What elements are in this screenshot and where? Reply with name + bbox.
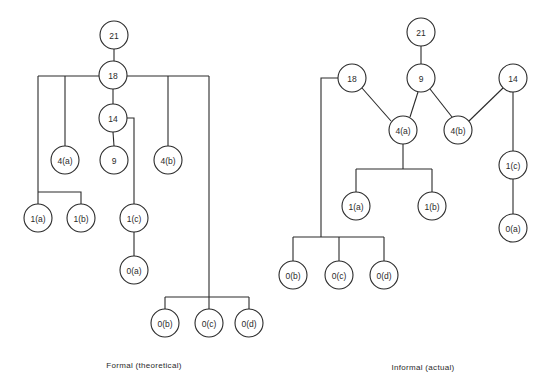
node-label: 0(a) [126,266,141,276]
node-label: 4(a) [57,156,72,166]
connector-line [321,78,338,237]
connector-line [362,88,391,121]
node-i0c: 0(c) [325,261,353,289]
node-label: 1(b) [424,202,439,212]
node-i1b: 1(b) [418,192,446,220]
node-f0c: 0(c) [195,309,223,337]
node-f14: 14 [99,104,127,132]
node-label: 14 [108,114,118,124]
org-chart-canvas: 2118144(a)94(b)1(a)1(b)1(c)0(a)0(b)0(c)0… [0,0,548,381]
node-label: 1(b) [73,214,88,224]
node-f1c: 1(c) [120,204,148,232]
node-i9: 9 [407,64,435,92]
connector-line [469,88,503,121]
node-label: 0(d) [376,271,391,281]
formal-tree: 2118144(a)94(b)1(a)1(b)1(c)0(a)0(b)0(c)0… [24,21,263,337]
informal-tree: 21189144(a)4(b)1(c)1(a)1(b)0(a)0(b)0(c)0… [279,18,527,289]
node-f1a: 1(a) [24,204,52,232]
connector-line [113,132,114,146]
node-label: 0(b) [285,271,300,281]
node-f18: 18 [99,61,127,89]
node-label: 1(a) [348,202,363,212]
node-f0b: 0(b) [151,309,179,337]
node-label: 0(b) [157,319,172,329]
node-i0a: 0(a) [499,214,527,242]
node-i4b: 4(b) [444,116,472,144]
node-label: 0(d) [241,319,256,329]
node-f0a: 0(a) [120,256,148,284]
node-f1b: 1(b) [67,204,95,232]
node-label: 1(c) [127,214,142,224]
node-label: 1(c) [506,161,521,171]
node-label: 21 [109,31,119,41]
connector-line [430,89,452,117]
node-label: 14 [508,74,518,84]
node-label: 4(a) [395,126,410,136]
formal-caption: Formal (theoretical) [106,361,181,370]
node-i0d: 0(d) [370,261,398,289]
connector-line [38,192,81,204]
connector-line [410,92,418,117]
node-label: 0(c) [202,319,217,329]
node-label: 9 [112,156,117,166]
node-label: 0(a) [505,224,520,234]
node-i14: 14 [499,64,527,92]
node-label: 4(b) [450,126,465,136]
node-label: 9 [419,74,424,84]
node-i18: 18 [338,64,366,92]
node-i0b: 0(b) [279,261,307,289]
node-i21: 21 [407,18,435,46]
node-f21: 21 [100,21,128,49]
node-i1c: 1(c) [499,151,527,179]
node-label: 18 [108,71,118,81]
node-f0d: 0(d) [235,309,263,337]
node-i4a: 4(a) [389,116,417,144]
node-label: 18 [347,74,357,84]
node-label: 0(c) [332,271,347,281]
node-f4a: 4(a) [51,146,79,174]
node-label: 1(a) [30,214,45,224]
informal-caption: Informal (actual) [392,363,455,372]
node-label: 4(b) [160,156,175,166]
node-i1a: 1(a) [342,192,370,220]
node-label: 21 [416,28,426,38]
node-f9: 9 [100,146,128,174]
node-f4b: 4(b) [154,146,182,174]
